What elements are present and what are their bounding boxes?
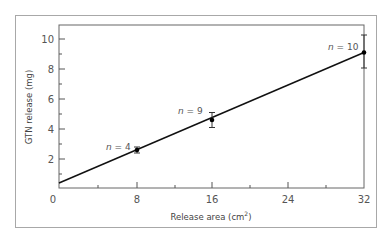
y-tick-label: 10 [41, 34, 54, 45]
data-point [210, 118, 215, 123]
y-tick-label: 2 [48, 154, 54, 165]
x-tick-label: 16 [206, 194, 219, 205]
data-point [135, 148, 140, 153]
annotation-n9: n = 9 [178, 106, 203, 116]
y-axis-ticks [59, 39, 65, 174]
y-tick-label: 8 [48, 64, 54, 75]
y-tick-label: 4 [48, 124, 54, 135]
y-axis-label: GTN release (mg) [24, 70, 34, 145]
x-tick-label: 32 [358, 194, 371, 205]
x-tick-label: 0 [50, 194, 56, 205]
chart: 2 4 6 8 10 0 8 16 24 32 Release area (cm… [0, 0, 392, 237]
x-tick-label: 24 [282, 194, 295, 205]
x-axis-label: Release area (cm2) [171, 210, 252, 222]
x-tick-label: 8 [134, 194, 140, 205]
annotation-n10: n = 10 [328, 42, 359, 52]
y-tick-label: 6 [48, 94, 54, 105]
annotation-n4: n = 4 [106, 142, 131, 152]
data-point [362, 50, 367, 55]
x-axis-ticks [98, 182, 326, 188]
